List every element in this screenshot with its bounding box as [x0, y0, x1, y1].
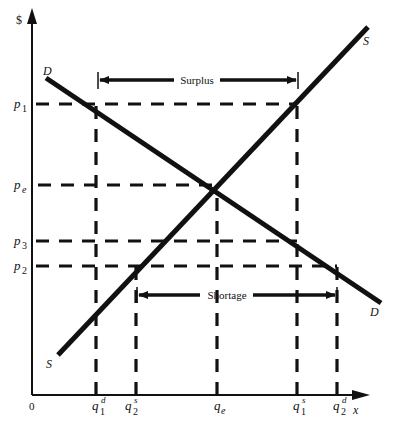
- supply-label-start: S: [46, 357, 52, 371]
- price-label-p1: p 1: [13, 96, 27, 114]
- origin-label: 0: [29, 400, 35, 412]
- q2s-sub: 2: [133, 406, 138, 417]
- quantity-label-q1s: q s 1: [293, 395, 306, 417]
- quantity-label-q2s: q s 2: [125, 395, 138, 417]
- y-axis-arrow-icon: [27, 8, 37, 24]
- supply-demand-diagram: Surplus Shortage $ x 0 D D S S p 1 p e p…: [0, 0, 398, 430]
- demand-label-start: D: [42, 64, 52, 78]
- quantity-label-q1d: q d 1: [92, 395, 106, 417]
- q1d-sub: 1: [100, 406, 105, 417]
- q2d-sub: 2: [341, 406, 346, 417]
- price-label-p2: p 2: [13, 258, 27, 276]
- p2-sub: 2: [22, 265, 27, 276]
- demand-label-end: D: [369, 305, 379, 319]
- q1d-sup: d: [101, 395, 106, 405]
- q1d-base: q: [92, 398, 99, 413]
- p3-base: p: [13, 233, 21, 248]
- pe-base: p: [13, 177, 21, 192]
- shortage-label: Shortage: [207, 289, 246, 301]
- price-label-pe: p e: [13, 177, 27, 195]
- qe-sub: e: [221, 405, 226, 416]
- x-axis-arrow-icon: [352, 390, 370, 400]
- supply-label-end: S: [363, 34, 369, 48]
- q2s-sup: s: [134, 395, 138, 405]
- quantity-label-qe: q e: [214, 398, 226, 416]
- x-axis-label: x: [352, 403, 359, 417]
- surplus-label: Surplus: [180, 74, 214, 86]
- q2d-sup: d: [342, 395, 347, 405]
- surplus-annotation: Surplus: [98, 72, 298, 89]
- p2-base: p: [13, 258, 21, 273]
- p3-sub: 3: [22, 240, 27, 251]
- q2s-base: q: [125, 398, 132, 413]
- shortage-annotation: Shortage: [137, 287, 337, 303]
- q2d-base: q: [333, 398, 340, 413]
- qe-base: q: [214, 398, 221, 413]
- pe-sub: e: [22, 184, 27, 195]
- p1-base: p: [13, 96, 21, 111]
- q1s-base: q: [293, 398, 300, 413]
- y-axis-label: $: [16, 13, 22, 27]
- price-label-p3: p 3: [13, 233, 27, 251]
- q1s-sup: s: [302, 395, 306, 405]
- q1s-sub: 1: [301, 406, 306, 417]
- quantity-label-q2d: q d 2: [333, 395, 347, 417]
- p1-sub: 1: [22, 103, 27, 114]
